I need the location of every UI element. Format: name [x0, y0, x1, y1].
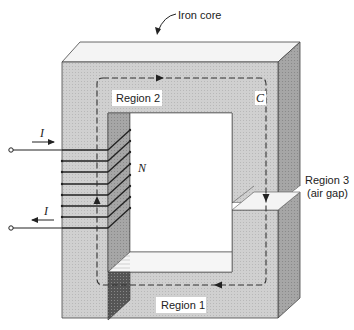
magnetic-circuit-diagram: Iron core Region 2 C Region 1 Region 3 (…: [0, 0, 354, 330]
label-turns-n: N: [137, 161, 147, 175]
label-current-in: I: [39, 126, 45, 140]
terminal-top: [9, 148, 13, 152]
window-inner-floor: [108, 252, 232, 272]
label-current-out: I: [43, 204, 49, 218]
core-top-face: [62, 42, 300, 62]
label-iron-core: Iron core: [178, 9, 221, 21]
label-region3-line2: (air gap): [307, 187, 348, 199]
iron-core-leader-arrowhead: [155, 27, 161, 35]
core-right-face-lower: [278, 192, 300, 318]
iron-core-leader: [158, 14, 176, 31]
label-region3-line1: Region 3: [305, 174, 349, 186]
lead-wires: [13, 150, 62, 228]
terminal-bottom: [9, 226, 13, 230]
core-right-face-upper: [278, 42, 300, 203]
label-region2: Region 2: [116, 92, 160, 104]
label-region1: Region 1: [161, 299, 205, 311]
window-opening: [130, 113, 232, 252]
label-path-c: C: [256, 91, 265, 105]
